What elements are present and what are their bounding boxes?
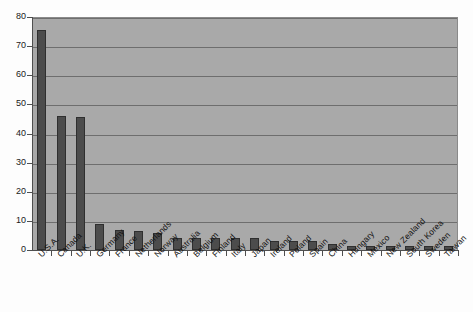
y-axis-tick <box>27 134 32 135</box>
x-axis-tick <box>148 251 149 256</box>
x-axis-tick <box>187 251 188 256</box>
bar <box>37 30 46 250</box>
y-axis-tick-label: 10 <box>2 216 26 225</box>
y-axis-tick <box>27 250 32 251</box>
x-axis-tick <box>400 251 401 256</box>
x-axis-tick <box>342 251 343 256</box>
y-axis-tick-label: 50 <box>2 99 26 108</box>
x-axis-tick <box>303 251 304 256</box>
y-axis-tick-label: 60 <box>2 70 26 79</box>
x-axis-tick <box>206 251 207 256</box>
y-axis-tick <box>27 46 32 47</box>
y-axis-tick <box>27 104 32 105</box>
y-axis-tick-label: 20 <box>2 187 26 196</box>
bars-group <box>32 17 458 250</box>
x-axis-tick <box>90 251 91 256</box>
x-axis-tick <box>71 251 72 256</box>
y-axis-tick <box>27 192 32 193</box>
x-axis-tick <box>458 251 459 256</box>
x-axis-tick <box>322 251 323 256</box>
x-axis-tick <box>361 251 362 256</box>
x-axis-tick <box>439 251 440 256</box>
bar <box>57 116 66 250</box>
y-axis-tick-label: 40 <box>2 129 26 138</box>
x-axis-labels: U.S.A.CanadaU.K.GermanyFranceNetherlands… <box>0 252 473 312</box>
y-axis-tick-label: 30 <box>2 158 26 167</box>
y-axis-tick-label: 80 <box>2 12 26 21</box>
bar-chart: 01020304050607080 U.S.A.CanadaU.K.German… <box>0 0 473 312</box>
x-axis-tick <box>381 251 382 256</box>
x-axis-tick <box>109 251 110 256</box>
x-axis-tick <box>51 251 52 256</box>
x-axis-tick <box>284 251 285 256</box>
x-axis-tick <box>226 251 227 256</box>
y-axis-tick-label: 70 <box>2 41 26 50</box>
x-axis-tick <box>264 251 265 256</box>
y-axis-tick <box>27 163 32 164</box>
y-axis-tick <box>27 75 32 76</box>
x-axis-tick <box>168 251 169 256</box>
x-axis-tick <box>419 251 420 256</box>
y-axis-tick <box>27 221 32 222</box>
x-axis-tick <box>245 251 246 256</box>
bar <box>76 117 85 250</box>
x-axis-tick <box>129 251 130 256</box>
y-axis-line <box>32 17 33 251</box>
chart-title-sliver <box>28 0 208 7</box>
y-axis-tick <box>27 17 32 18</box>
